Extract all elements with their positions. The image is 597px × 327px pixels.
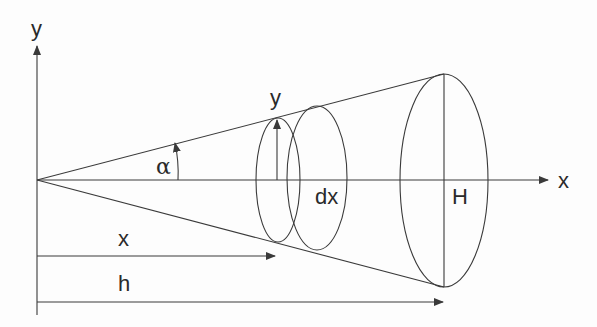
diagram-graphics [0,0,597,327]
y-axis-label: y [31,18,42,40]
h-distance-label: h [118,273,130,295]
cone-diagram: y x α y dx H x h [0,0,597,327]
disc-ellipse-2 [287,106,347,250]
dx-label: dx [315,186,338,208]
x-distance-label: x [118,228,129,250]
alpha-arc [175,143,178,180]
cone-lower-edge [37,180,444,287]
radius-y-label: y [270,87,281,109]
cone-upper-edge [37,74,444,180]
H-label: H [452,186,468,208]
alpha-label: α [156,156,171,178]
x-axis-label: x [558,170,569,192]
